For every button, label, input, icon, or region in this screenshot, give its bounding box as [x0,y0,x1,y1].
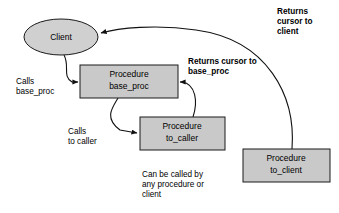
node-to-caller[interactable]: Procedure to_caller [140,117,225,150]
node-base-proc[interactable]: Procedure base_proc [80,65,178,98]
node-to-client[interactable]: Procedure to_client [243,149,330,182]
edge-client-to-base-proc [64,55,78,82]
to-caller-label-line2: to_caller [166,133,198,143]
diagram-root: Client Procedure base_proc Procedure to_… [0,0,339,213]
to-client-label-line2: to_client [270,165,302,175]
node-client[interactable]: Client [24,19,98,55]
base-proc-label-line1: Procedure [109,69,148,79]
annotation-calls-base-proc: Calls base_proc [16,77,54,97]
to-client-label-line1: Procedure [266,153,305,163]
client-label: Client [50,32,72,42]
annotation-returns-cursor-to-client: Returns cursor to client [277,7,313,38]
edge-base-proc-to-to-caller [111,98,137,133]
edge-to-caller-returns-to-base-proc [180,82,195,117]
to-caller-label-line1: Procedure [162,121,201,131]
annotation-returns-cursor-to-base-proc: Returns cursor to base_proc [188,57,257,77]
annotation-calls-to-caller: Calls to caller [68,127,97,147]
annotation-can-be-called-by: Can be called by any procedure or client [142,170,204,201]
base-proc-label-line2: base_proc [109,81,149,91]
